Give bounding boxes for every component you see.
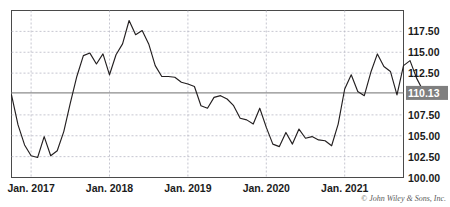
y-axis-tick-label: 107.50 <box>408 109 440 121</box>
y-axis-tick-label: 105.00 <box>408 130 440 142</box>
copyright-notice: © John Wiley & Sons, Inc. <box>361 194 446 203</box>
x-axis-tick-label: Jan. 2020 <box>243 182 290 194</box>
y-axis-tick-label: 112.50 <box>408 67 440 79</box>
y-axis-tick-label: 117.50 <box>408 25 440 37</box>
x-axis-tick-label: Jan. 2017 <box>7 182 54 194</box>
chart-canvas: 117.50115.00112.50107.50105.00102.50100.… <box>0 0 450 207</box>
x-axis-tick-label: Jan. 2021 <box>321 182 368 194</box>
y-axis-tick-label: 102.50 <box>408 151 440 163</box>
current-value-label: 110.13 <box>408 87 440 99</box>
y-axis-tick-label: 115.00 <box>408 46 440 58</box>
x-axis-tick-label: Jan. 2018 <box>86 182 133 194</box>
current-value-badge: 110.13 <box>406 86 448 100</box>
x-axis-tick-label: Jan. 2019 <box>164 182 211 194</box>
y-axis-tick-label: 100.00 <box>408 172 440 184</box>
stock-index-line-chart: 117.50115.00112.50107.50105.00102.50100.… <box>0 0 450 207</box>
